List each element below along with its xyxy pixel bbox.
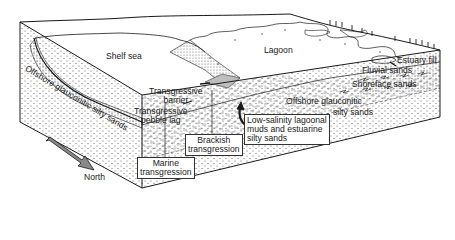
box-marine-transgression: Marine transgression — [137, 157, 195, 179]
label-north: North — [84, 173, 105, 182]
label-offshore-right-2: silty sands — [333, 108, 373, 117]
box-brackish-transgression: Brackish transgression — [185, 134, 243, 156]
label-pebble-lag: Transgressive pebble lag — [134, 107, 188, 125]
label-fluvial-sands: Fluvial sands — [362, 66, 412, 75]
label-shoreface-sands: Shoreface sands — [352, 80, 417, 89]
box-low-salinity: Low-salinity lagoonal muds and estuarine… — [244, 114, 330, 145]
label-lagoon: Lagoon — [264, 46, 293, 55]
label-offshore-right-1: Offshore glauconitic — [286, 97, 362, 106]
label-estuary-fill: Estuary fill — [397, 56, 437, 65]
label-shelf-sea: Shelf sea — [106, 52, 142, 61]
label-transgressive-barrier: Transgressive barrier — [149, 87, 203, 105]
